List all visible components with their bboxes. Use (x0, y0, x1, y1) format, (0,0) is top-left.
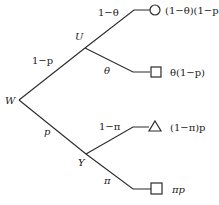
square-outcome-icon (151, 67, 161, 77)
edge-w-y (19, 100, 86, 154)
square-outcome-icon-lower (151, 183, 162, 194)
outcome-label-triangle: (1−π)p (170, 122, 206, 133)
edge-label-y-square: π (103, 175, 111, 186)
edge-u-leaf-square (85, 48, 150, 72)
edge-label-w-y: p (44, 126, 51, 137)
outcome-label-square-upper: θ(1−p) (170, 67, 205, 78)
probability-tree-diagram: W 1−p U p Y 1−θ (1−θ)(1−p) θ θ(1−p) 1−π … (0, 0, 219, 205)
edge-label-u-square: θ (104, 65, 110, 76)
edge-label-u-circle: 1−θ (98, 7, 119, 18)
circle-outcome-icon (150, 5, 160, 15)
edge-label-y-triangle: 1−π (99, 121, 121, 132)
edge-label-w-u: 1−p (32, 55, 53, 66)
edge-y-leaf-square (86, 154, 151, 189)
node-label-y: Y (78, 157, 86, 168)
node-label-u: U (75, 31, 84, 42)
outcome-label-square-lower: πp (171, 184, 186, 195)
triangle-outcome-icon (149, 121, 161, 131)
outcome-label-circle: (1−θ)(1−p) (165, 5, 219, 16)
root-label-w: W (5, 95, 16, 106)
